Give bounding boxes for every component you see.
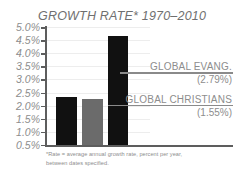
y-tick-label: 1.5% [4,113,40,125]
y-tick-label: 1.0% [4,126,40,138]
y-tick-label: 5.0% [4,21,40,33]
y-tick-mark [41,106,46,108]
reference-label-global-christians: GLOBAL CHRISTIANS [108,94,232,105]
y-tick-mark [41,132,46,134]
y-tick-label: 2.5% [4,87,40,99]
y-tick-mark [41,79,46,81]
chart-title: GROWTH RATE* 1970–2010 [38,9,206,23]
y-axis-line [45,26,47,146]
y-tick-mark [41,66,46,68]
y-tick-mark [41,119,46,121]
y-tick-mark [41,27,46,29]
y-tick-mark [41,40,46,42]
gridline [46,53,150,54]
reference-value-global-evang: (2.79%) [120,74,232,85]
y-tick-label: 2.0% [4,100,40,112]
gridline [46,40,150,41]
y-tick-mark [41,93,46,95]
chart-footnote: *Rate = average annual growth rate, perc… [46,150,226,167]
footnote-line-2: between dates specified. [46,159,226,168]
gridline [46,27,150,28]
y-tick-label: 3.5% [4,60,40,72]
y-tick-label: 3.0% [4,73,40,85]
growth-rate-chart: GROWTH RATE* 1970–2010 5.0% 4.5% 4.0% 3.… [0,0,238,176]
footnote-line-1: *Rate = average annual growth rate, perc… [46,150,226,159]
y-tick-label: 0.5% [4,139,40,151]
y-tick-mark [41,53,46,55]
bar-2 [82,99,103,146]
y-tick-label: 4.5% [4,34,40,46]
bar-3 [108,36,128,146]
x-axis-baseline [45,145,233,147]
bar-1 [56,97,77,146]
y-tick-label: 4.0% [4,47,40,59]
reference-value-global-christians: (1.55%) [108,107,232,118]
reference-label-global-evang: GLOBAL EVANG. [120,61,232,72]
y-axis-labels: 5.0% 4.5% 4.0% 3.5% 3.0% 2.5% 2.0% 1.5% … [0,0,40,176]
